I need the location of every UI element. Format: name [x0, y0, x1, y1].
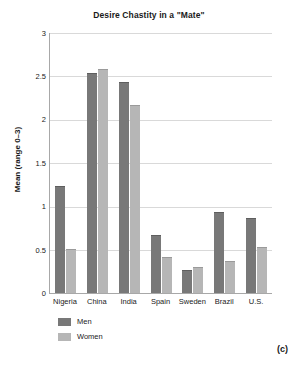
- x-tick-label: Nigeria: [49, 297, 81, 306]
- panel-label: (c): [277, 344, 288, 354]
- x-tick-label: Brazil: [208, 297, 240, 306]
- y-tick-label: 2: [6, 116, 46, 124]
- x-tick-label: U.S.: [240, 297, 272, 306]
- y-tick-label: 0.5: [6, 247, 46, 255]
- bar: [119, 82, 129, 293]
- chart-title: Desire Chastity in a "Mate": [0, 10, 298, 20]
- legend-swatch-icon: [58, 318, 71, 326]
- x-tick-label: Sweden: [176, 297, 208, 306]
- bar-group: [177, 33, 209, 293]
- bar-group: [113, 33, 145, 293]
- bar-group: [145, 33, 177, 293]
- legend-label: Women: [77, 332, 103, 341]
- y-tick-label: 0: [6, 290, 46, 298]
- bar: [87, 73, 97, 293]
- bar: [246, 218, 256, 293]
- y-tick-label: 2.5: [6, 73, 46, 81]
- x-tick-label: Spain: [145, 297, 177, 306]
- bar: [193, 267, 203, 293]
- bar: [214, 212, 224, 293]
- plot-area: [49, 33, 272, 294]
- x-tick-label: China: [81, 297, 113, 306]
- bar: [151, 235, 161, 293]
- bar: [225, 261, 235, 293]
- y-tick-label: 1.5: [6, 160, 46, 168]
- bar-group: [240, 33, 272, 293]
- y-tick-label: 1: [6, 203, 46, 211]
- bar-group: [50, 33, 82, 293]
- bar-group: [209, 33, 241, 293]
- bar: [182, 270, 192, 293]
- bar-group: [82, 33, 114, 293]
- bar: [66, 249, 76, 293]
- legend-item-women: Women: [58, 329, 103, 344]
- x-tick-label: India: [113, 297, 145, 306]
- chart-figure: Desire Chastity in a "Mate" Mean (range …: [0, 0, 298, 368]
- legend-item-men: Men: [58, 314, 103, 329]
- bar: [130, 105, 140, 293]
- chart-legend: Men Women: [58, 314, 103, 344]
- bar: [257, 247, 267, 293]
- legend-label: Men: [77, 317, 92, 326]
- legend-swatch-icon: [58, 333, 71, 341]
- bar: [98, 69, 108, 293]
- x-axis-tick-labels: NigeriaChinaIndiaSpainSwedenBrazilU.S.: [49, 297, 272, 306]
- bar: [162, 257, 172, 293]
- y-tick-label: 3: [6, 30, 46, 38]
- bar: [55, 186, 65, 293]
- bar-series-container: [50, 33, 272, 293]
